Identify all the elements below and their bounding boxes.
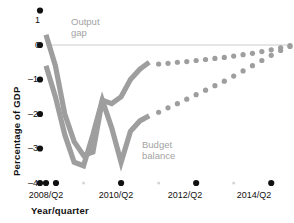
- y-tick-label-1: 1: [22, 15, 40, 25]
- series-forecast-dot: [259, 49, 264, 54]
- y-axis-tick-marks: [37, 7, 43, 186]
- series-forecast-dot: [203, 88, 208, 93]
- y-tick-label-neg1: –1: [20, 74, 38, 84]
- x-axis-minor-tick-marks: [82, 182, 235, 185]
- series-forecast-dot: [212, 56, 217, 61]
- series-forecast-dot: [259, 58, 264, 63]
- x-tick-dot: [118, 180, 124, 186]
- x-tick-label-2010q2: 2010/Q2: [88, 190, 144, 200]
- series-forecast-dot: [194, 92, 199, 97]
- series-forecast-dot: [240, 68, 245, 73]
- series-forecast-dot: [278, 48, 283, 53]
- series-forecast-dot: [203, 57, 208, 62]
- x-tick-dot: [53, 180, 59, 186]
- series-line-solid: [46, 66, 149, 166]
- y-tick-label-neg4: –4: [20, 178, 38, 188]
- x-axis-title: Year/quarter: [31, 205, 89, 216]
- y-tick-label-neg3: –3: [20, 143, 38, 153]
- x-minor-tick-dot: [157, 182, 160, 185]
- series-line-solid: [46, 35, 149, 156]
- data-series-output-gap: [46, 35, 293, 156]
- x-tick-dot: [43, 180, 49, 186]
- series-forecast-dot: [222, 55, 227, 60]
- y-tick-label-neg2: –2: [20, 109, 38, 119]
- x-tick-dot: [268, 180, 274, 186]
- series-forecast-dot: [231, 53, 236, 58]
- series-forecast-dot: [175, 101, 180, 106]
- x-tick-dot: [193, 180, 199, 186]
- x-tick-label-2014q2: 2014/Q2: [226, 190, 282, 200]
- series-forecast-dot: [175, 60, 180, 65]
- series-forecast-dot: [194, 58, 199, 63]
- series-forecast-dot: [165, 61, 170, 66]
- series-annotation-budget-balance: Budget balance: [142, 139, 175, 161]
- series-forecast-dot: [165, 105, 170, 110]
- series-forecast-dot: [222, 79, 227, 84]
- y-axis-title: Percentage of GDP: [11, 87, 22, 176]
- series-forecast-dot: [212, 83, 217, 88]
- x-minor-tick-dot: [232, 182, 235, 185]
- series-forecast-dot: [250, 63, 255, 68]
- x-minor-tick-dot: [82, 182, 85, 185]
- series-forecast-dot: [156, 110, 161, 115]
- series-forecast-dot: [240, 52, 245, 57]
- series-forecast-dot: [269, 53, 274, 58]
- series-forecast-dot: [250, 51, 255, 56]
- series-forecast-dot: [287, 44, 292, 49]
- y-tick-label-0: 0: [22, 40, 40, 50]
- series-forecast-dot: [156, 61, 161, 66]
- series-forecast-dot: [231, 73, 236, 78]
- series-annotation-output-gap: Output gap: [71, 16, 100, 38]
- x-tick-label-2008q2: 2008/Q2: [18, 190, 74, 200]
- series-forecast-dot: [184, 59, 189, 64]
- y-tick-dot: [37, 7, 43, 13]
- chart-figure: Percentage of GDP 1 0 –1 –2 –3 –4 2008/Q…: [0, 0, 294, 223]
- series-forecast-dot: [184, 97, 189, 102]
- x-tick-label-2012q2: 2012/Q2: [157, 190, 213, 200]
- series-forecast-dot: [269, 47, 274, 52]
